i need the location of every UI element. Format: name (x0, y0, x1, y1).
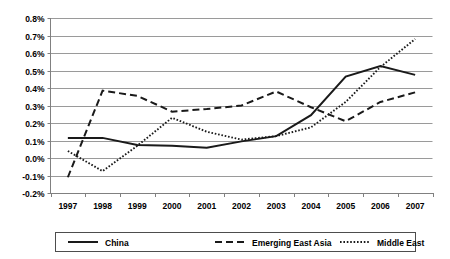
y-axis-tick-label: 0.2% (25, 119, 45, 129)
y-axis-tick-label: 0.0% (25, 154, 45, 164)
y-axis-tick-label: 0.7% (25, 32, 45, 42)
chart-legend: ChinaEmerging East AsiaMiddle East (56, 233, 425, 252)
y-axis-tick-labels: 0.8%0.7%0.6%0.5%0.4%0.3%0.2%0.1%0.0%-0.1… (22, 14, 45, 199)
y-axis-tick-label: 0.4% (25, 84, 45, 94)
chart-container: 0.8%0.7%0.6%0.5%0.4%0.3%0.2%0.1%0.0%-0.1… (0, 0, 450, 259)
legend-label-china: China (105, 238, 129, 248)
x-axis-tick-label: 2006 (371, 201, 390, 211)
legend-label-emerging-east-asia: Emerging East Asia (252, 238, 332, 248)
x-axis-tick-label: 2007 (406, 201, 425, 211)
legend-label-middle-east: Middle East (377, 238, 424, 248)
x-axis-tick-label: 2004 (301, 201, 320, 211)
x-axis-tick-label: 1998 (93, 201, 112, 211)
y-axis-tick-label: 0.3% (25, 102, 45, 112)
x-axis-tick-label: 1999 (128, 201, 147, 211)
x-axis-tick-label: 2002 (232, 201, 251, 211)
x-axis-tick-label: 2003 (267, 201, 286, 211)
y-axis-tick-label: 0.8% (25, 14, 45, 24)
y-axis-tick-label: -0.2% (22, 189, 45, 199)
y-axis-tick-label: 0.6% (25, 49, 45, 59)
x-axis-tick-label: 2000 (163, 201, 182, 211)
y-axis-tick-label: -0.1% (22, 172, 45, 182)
chart-background (0, 0, 450, 259)
line-chart: 0.8%0.7%0.6%0.5%0.4%0.3%0.2%0.1%0.0%-0.1… (0, 0, 450, 259)
y-axis-tick-label: 0.5% (25, 67, 45, 77)
x-axis-tick-label: 2001 (197, 201, 216, 211)
x-axis-tick-label: 2005 (336, 201, 355, 211)
y-axis-tick-label: 0.1% (25, 137, 45, 147)
x-axis-tick-label: 1997 (58, 201, 77, 211)
